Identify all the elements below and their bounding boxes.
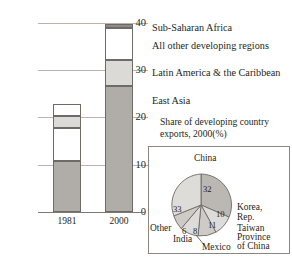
legend-item-east-asia: East Asia [152, 95, 190, 107]
pie-label-taiwan-line-3: of China [237, 241, 270, 251]
inset-caption: Share of developing country exports, 200… [160, 116, 290, 139]
bar-1981-segment-east-asia [53, 161, 81, 212]
bar-1981-segment-latin-america [53, 116, 81, 127]
x-label-1981: 1981 [48, 216, 86, 226]
inset-caption-line-1: Share of developing country [160, 116, 290, 128]
bar-2000[interactable] [105, 24, 133, 212]
legend-item-all-other-developing-regions: All other developing regions [152, 40, 269, 52]
pie-inset-box: 32 10 11 8 6 33 China Korea, Rep. Taiwan… [148, 146, 290, 254]
bar-2000-segment-sub-saharan-africa [105, 24, 133, 28]
chart-figure: 40 30 20 10 0 [0, 0, 292, 258]
bar-2000-segment-latin-america [105, 60, 133, 85]
pie-value-korea: 10 [216, 210, 225, 219]
pie-label-other: Other [150, 223, 171, 233]
pie-label-china: China [194, 153, 216, 163]
pie-value-other: 33 [173, 205, 182, 214]
bar-2000-segment-east-asia [105, 86, 133, 212]
legend-item-sub-saharan-africa: Sub-Saharan Africa [152, 22, 232, 34]
pie-value-taiwan: 11 [208, 221, 216, 230]
pie-value-china: 32 [203, 185, 212, 194]
stacked-bar-plot: 40 30 20 10 0 [0, 0, 146, 258]
bar-1981-segment-other-regions-lower [53, 128, 81, 162]
pie-label-india: India [173, 234, 192, 244]
pie-label-korea-line-2: Rep. [237, 212, 254, 222]
inset-caption-line-2: exports, 2000(%) [160, 128, 290, 140]
bar-2000-segment-other-regions [105, 28, 133, 60]
x-axis-line [38, 212, 146, 213]
pie-label-korea-line-1: Korea, [237, 202, 262, 212]
legend-item-latin-america-caribbean: Latin America & the Caribbean [152, 67, 280, 79]
pie-label-mexico: Mexico [202, 242, 231, 252]
x-label-2000: 2000 [100, 216, 138, 226]
bar-1981-segment-other-regions-upper [53, 104, 81, 116]
bar-1981[interactable] [53, 104, 81, 212]
pie-value-mexico: 8 [193, 227, 197, 236]
